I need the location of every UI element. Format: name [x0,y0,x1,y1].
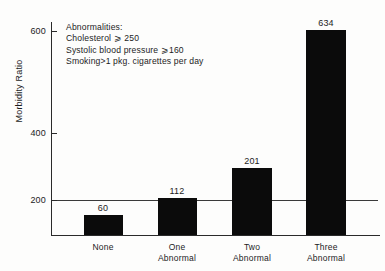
bar-one-abnormal [158,198,197,235]
x-category-label-two-abnormal-line1: Two [214,242,290,253]
y-tick-label-200: 200 [12,195,46,205]
abnormalities-annotation: Abnormalities: Cholesterol ⩾ 250 Systoli… [66,22,204,68]
y-tick-mark-200 [51,200,57,201]
annotation-line-blood-pressure: Systolic blood pressure ⩾160 [66,45,204,56]
x-category-label-three-abnormal-line2: Abnormal [288,253,364,264]
x-category-label-three-abnormal: Three Abnormal [288,242,364,264]
bar-value-none: 60 [78,203,128,213]
x-category-label-three-abnormal-line1: Three [288,242,364,253]
x-axis-line [51,235,380,236]
bar-value-two-abnormal: 201 [227,156,277,166]
x-category-label-one-abnormal-line2: Abnormal [139,253,215,264]
morbidity-ratio-bar-chart: Morbidity Ratio 200 400 600 60 112 201 6… [0,0,385,271]
x-category-label-none-line1: None [65,242,141,253]
y-tick-mark-400 [51,133,57,134]
bar-value-one-abnormal: 112 [152,186,202,196]
bar-three-abnormal [306,30,346,235]
x-category-label-one-abnormal: One Abnormal [139,242,215,264]
x-category-label-one-abnormal-line1: One [139,242,215,253]
y-axis-line [51,22,52,236]
annotation-line-cholesterol: Cholesterol ⩾ 250 [66,33,204,44]
y-tick-mark-600 [51,31,57,32]
x-category-label-two-abnormal-line2: Abnormal [214,253,290,264]
annotation-line-heading: Abnormalities: [66,22,204,33]
y-tick-label-400: 400 [12,128,46,138]
x-category-label-none: None [65,242,141,253]
bar-two-abnormal [232,168,272,235]
x-category-label-two-abnormal: Two Abnormal [214,242,290,264]
bar-value-three-abnormal: 634 [301,18,351,28]
y-tick-label-600: 600 [12,26,46,36]
bar-none [84,215,123,235]
annotation-line-smoking: Smoking>1 pkg. cigarettes per day [66,56,204,67]
